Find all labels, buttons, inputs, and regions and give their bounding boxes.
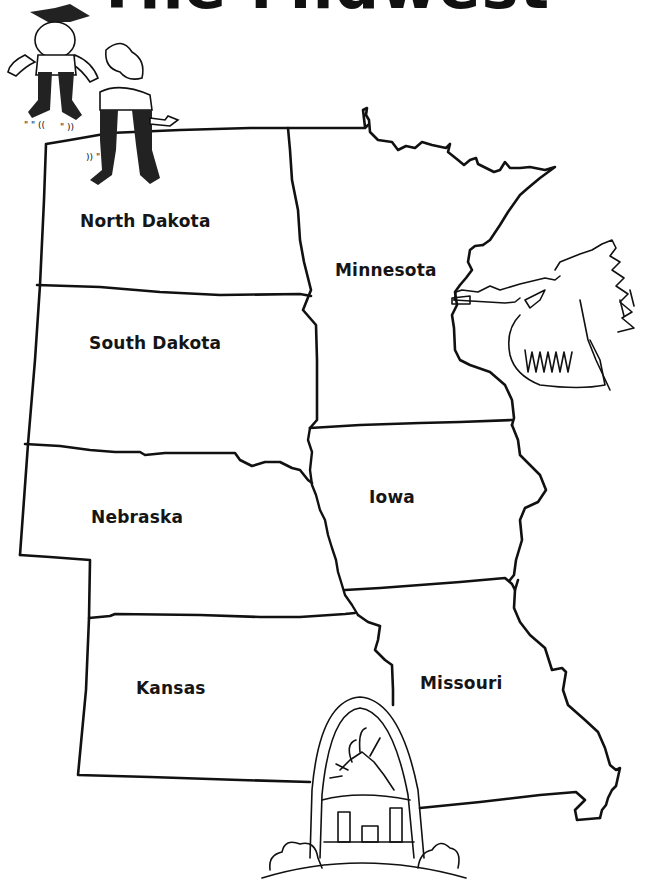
label-north-dakota: North Dakota bbox=[80, 211, 211, 231]
missouri-east-border bbox=[514, 590, 620, 818]
label-south-dakota: South Dakota bbox=[89, 333, 221, 353]
ia-mo-border bbox=[345, 578, 518, 590]
label-kansas: Kansas bbox=[136, 678, 206, 698]
minnesota-west-border bbox=[288, 128, 317, 428]
nd-sd-border bbox=[37, 285, 311, 296]
gateway-arch-illustration bbox=[262, 697, 466, 878]
minnesota-east-border bbox=[452, 245, 514, 425]
midwest-map: " " (( " )) )) " bbox=[0, 0, 646, 882]
kansas-border bbox=[78, 618, 310, 782]
ne-south-border bbox=[20, 555, 355, 618]
sd-ne-border bbox=[25, 444, 312, 483]
missouri-river-border bbox=[308, 428, 358, 615]
missouri-bootheel bbox=[420, 792, 600, 820]
mn-ia-border bbox=[310, 420, 512, 428]
north-dakota-border bbox=[40, 125, 368, 285]
svg-text:" )): " )) bbox=[60, 122, 74, 132]
ks-mo-border bbox=[358, 615, 393, 705]
label-nebraska: Nebraska bbox=[91, 507, 183, 527]
label-missouri: Missouri bbox=[420, 673, 503, 693]
west-border bbox=[20, 285, 40, 555]
iowa-east-border bbox=[510, 425, 546, 580]
label-minnesota: Minnesota bbox=[335, 260, 437, 280]
label-iowa: Iowa bbox=[369, 487, 415, 507]
minnesota-north-border bbox=[363, 108, 555, 245]
svg-text:)) ": )) " bbox=[86, 152, 100, 162]
dancing-cowboys-illustration: " " (( " )) )) " bbox=[8, 4, 178, 185]
svg-text:" " ((: " " (( bbox=[24, 120, 45, 130]
